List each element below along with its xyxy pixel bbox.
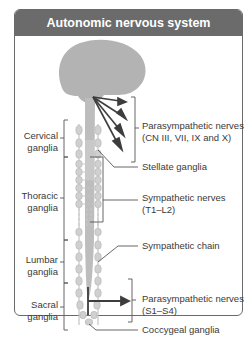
sacral-arrow (88, 287, 129, 315)
label-cervical-ganglia: Cervicalganglia (16, 130, 58, 154)
label-sympathetic-chain: Sympathetic chain (142, 240, 220, 252)
label-coccygeal-ganglia: Coccygeal ganglia (142, 324, 220, 336)
label-sacral-ganglia: Sacralganglia (16, 299, 58, 323)
brain-icon (59, 40, 146, 104)
label-thoracic-ganglia: Thoracicganglia (16, 190, 58, 214)
label-lumbar-ganglia: Lumbarganglia (16, 254, 58, 278)
label-parasympathetic-sacral: Parasympathetic nerves(S1–S4) (142, 293, 244, 317)
label-sympathetic-nerves: Sympathetic nerves(T1–L2) (142, 192, 225, 216)
label-stellate-ganglia: Stellate ganglia (142, 161, 207, 173)
spinal-cord (85, 98, 95, 300)
label-parasympathetic-cranial: Parasympathetic nerves(CN III, VII, IX a… (142, 120, 244, 144)
